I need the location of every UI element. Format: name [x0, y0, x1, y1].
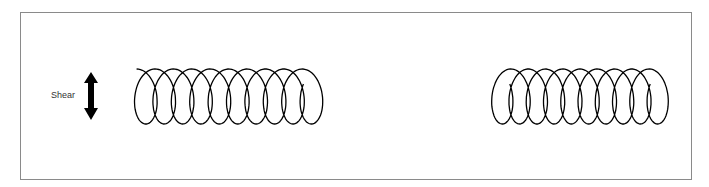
diagram-canvas: [0, 0, 709, 187]
coil-sheared: [135, 69, 323, 124]
coil-unsheared: [492, 69, 669, 124]
shear-arrow-icon: [84, 72, 98, 120]
